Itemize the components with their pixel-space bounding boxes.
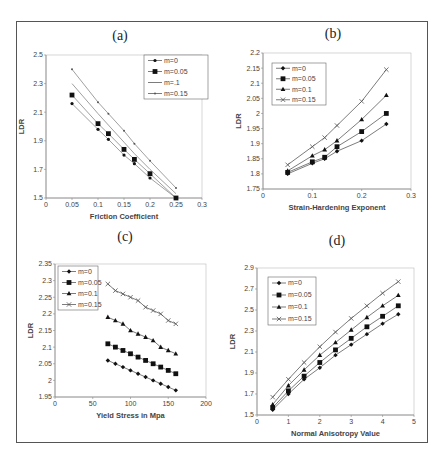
data-point-marker: [128, 351, 133, 356]
data-point-marker: [384, 67, 388, 71]
data-point-marker: [384, 93, 389, 97]
data-point-marker: [159, 312, 163, 316]
data-point-marker: [396, 303, 401, 308]
y-tick-label: 1.7: [33, 166, 43, 173]
chart-panel-a: (a)00.050.10.150.20.250.31.51.71.92.12.3…: [17, 28, 208, 221]
data-point-marker: [136, 355, 141, 360]
data-point-marker: [318, 345, 322, 349]
legend: m=0m=0.05m=0.1m=0.15: [58, 266, 102, 310]
data-point-marker: [151, 308, 155, 312]
y-tick-label: 2.3: [42, 277, 52, 284]
data-point-marker: [380, 291, 384, 295]
x-tick-label: 0: [44, 201, 48, 208]
x-tick-label: 0.2: [357, 192, 367, 199]
data-point-marker: [365, 332, 369, 336]
legend-entry: m=0.05: [164, 68, 188, 75]
data-point-marker: [151, 378, 155, 382]
y-tick-label: 1.95: [38, 393, 52, 400]
y-axis-label: LDR: [26, 322, 35, 338]
data-point-marker: [396, 293, 401, 297]
data-point-marker: [335, 149, 339, 153]
y-tick-label: 2: [48, 377, 52, 384]
panel-title: (d): [329, 233, 346, 249]
y-tick-label: 1.7: [244, 390, 254, 397]
legend-marker: [154, 93, 156, 95]
legend-entry: m=0.05: [288, 291, 312, 298]
legend-entry: m=0: [288, 279, 302, 286]
series-m--1: [72, 84, 176, 194]
data-point-marker: [158, 365, 163, 370]
x-tick-label: 0.05: [65, 201, 79, 208]
data-point-marker: [122, 147, 127, 152]
y-tick-label: 1.9: [244, 369, 254, 376]
legend-entry: m=0.05: [292, 75, 316, 82]
legend-entry: m=0.1: [288, 303, 308, 310]
panel-title: (b): [325, 26, 342, 42]
data-point-marker: [349, 316, 353, 320]
data-point-marker: [136, 298, 140, 302]
data-point-marker: [322, 155, 327, 160]
series-m-0: [106, 358, 178, 392]
data-point-marker: [333, 330, 337, 334]
x-axis-label: Yield Stress in Mpa: [96, 411, 165, 420]
data-point-marker: [310, 153, 315, 157]
data-point-marker: [166, 368, 171, 373]
data-point-marker: [107, 138, 110, 141]
y-tick-label: 2.35: [38, 260, 52, 267]
y-tick-label: 2.1: [42, 344, 52, 351]
data-point-marker: [97, 101, 99, 103]
x-tick-label: 50: [89, 400, 97, 407]
legend-marker: [153, 69, 158, 74]
data-point-marker: [132, 157, 137, 162]
legend: m=0m=0.05m=0.1m=0.15: [272, 63, 326, 105]
y-tick-label: 2.1: [250, 80, 260, 87]
legend-entry: m=0: [78, 268, 92, 275]
data-point-marker: [113, 288, 117, 292]
y-tick-label: 2.1: [244, 348, 254, 355]
data-point-marker: [335, 144, 340, 149]
data-point-marker: [96, 128, 99, 131]
data-point-marker: [333, 340, 338, 344]
data-point-marker: [136, 372, 140, 376]
data-point-marker: [149, 160, 151, 162]
legend-entry: m=.1: [164, 79, 180, 86]
data-point-marker: [396, 312, 400, 316]
data-point-marker: [380, 303, 385, 307]
data-point-marker: [71, 68, 73, 70]
data-point-marker: [310, 159, 315, 164]
legend-entry: m=0.05: [78, 279, 102, 286]
data-point-marker: [333, 348, 338, 353]
data-point-marker: [128, 295, 132, 299]
data-point-marker: [359, 129, 364, 134]
data-point-marker: [365, 304, 369, 308]
data-point-marker: [106, 358, 110, 362]
series-m-0-05: [285, 111, 388, 175]
y-tick-label: 2.05: [38, 360, 52, 367]
y-tick-label: 2.25: [38, 294, 52, 301]
data-point-marker: [365, 324, 370, 329]
data-point-marker: [70, 102, 73, 105]
series-m-0-15: [106, 282, 178, 326]
series-m-0: [271, 312, 401, 412]
data-point-marker: [96, 121, 101, 126]
data-point-marker: [349, 327, 354, 331]
y-tick-label: 2.7: [244, 285, 254, 292]
x-tick-label: 4: [381, 418, 385, 425]
x-axis-label: Friction Coefficient: [90, 212, 159, 221]
x-tick-label: 0.2: [145, 201, 155, 208]
data-point-marker: [271, 395, 275, 399]
y-axis-label: LDR: [17, 118, 26, 134]
x-tick-label: 0.15: [117, 201, 131, 208]
x-tick-label: 0: [255, 418, 259, 425]
legend-entry: m=0.15: [288, 315, 312, 322]
y-tick-label: 2.5: [33, 51, 43, 58]
data-point-marker: [113, 345, 118, 350]
panel-title: (a): [112, 28, 128, 44]
data-point-marker: [174, 388, 178, 392]
data-point-marker: [123, 130, 125, 132]
chart-panel-d: (d)0123451.51.71.92.12.32.52.72.9Normal …: [228, 233, 416, 438]
data-point-marker: [105, 341, 110, 346]
data-point-marker: [384, 122, 388, 126]
y-tick-label: 2.15: [246, 65, 260, 72]
data-point-marker: [121, 365, 125, 369]
